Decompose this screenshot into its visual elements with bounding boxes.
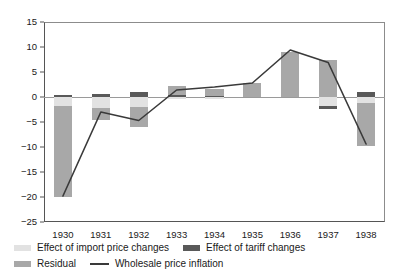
plot-area: 151050−5−10−15−20−25 1930193119321933193… [44,22,385,222]
legend-swatch-icon-residual [14,261,31,267]
x-axis-tick-label: 1931 [90,230,111,240]
legend-line-icon-inflation [90,263,109,265]
x-axis-tick-label: 1937 [318,230,339,240]
line-series-layer [44,22,385,222]
legend-item-inflation-line: Wholesale price inflation [90,259,223,269]
legend-row-1: Effect of import price changes Effect of… [14,240,406,256]
legend-item-tariff: Effect of tariff changes [183,243,305,253]
x-axis-tick-label: 1936 [280,230,301,240]
x-axis-tick-label: 1932 [128,230,149,240]
legend-row-2: Residual Wholesale price inflation [14,256,406,272]
legend-swatch-icon-import [14,245,31,251]
legend-swatch-icon-tariff [183,245,200,251]
x-axis-tick-label: 1930 [52,230,73,240]
legend-item-residual: Residual [14,259,76,269]
legend-label-tariff: Effect of tariff changes [206,243,305,253]
x-axis-tick-label: 1933 [166,230,187,240]
legend-label-import: Effect of import price changes [37,243,169,253]
legend-item-import-price: Effect of import price changes [14,243,169,253]
x-axis-tick-label: 1935 [242,230,263,240]
x-axis-tick-label: 1938 [355,230,376,240]
legend-label-residual: Residual [37,259,76,269]
legend-label-inflation: Wholesale price inflation [115,259,223,269]
chart-legend: Effect of import price changes Effect of… [14,240,406,272]
inflation-line [63,50,366,196]
chart-container: 151050−5−10−15−20−25 1930193119321933193… [0,0,416,276]
x-axis-tick-label: 1934 [204,230,225,240]
